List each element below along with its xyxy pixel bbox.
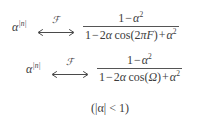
script-f-icon: ℱ [48, 57, 92, 67]
lhs-expression-1: α|n| [12, 19, 27, 35]
equation-sheet: α|n| ℱ 1−α2 1−2α cos(2πF)+α2 α|n| ℱ [0, 0, 210, 133]
denominator-2: 1−2α cos(Ω)+α2 [97, 69, 182, 84]
denominator-1: 1−2α cos(2πF)+α2 [83, 27, 179, 42]
convergence-condition: (|α| < 1) [0, 102, 210, 114]
fraction-1: 1−α2 1−2α cos(2πF)+α2 [83, 11, 179, 43]
lhs-expression-2: α|n| [26, 61, 41, 77]
correspondence-operator-1: ℱ [34, 16, 78, 38]
numerator-1: 1−α2 [114, 11, 147, 26]
double-arrow-icon [49, 71, 91, 78]
equation-row-1: α|n| ℱ 1−α2 1−2α cos(2πF)+α2 [12, 11, 179, 43]
numerator-2: 1−α2 [123, 53, 156, 68]
alpha-exponent: |n| [32, 61, 40, 70]
alpha-exponent: |n| [18, 19, 26, 28]
fraction-2: 1−α2 1−2α cos(Ω)+α2 [97, 53, 182, 85]
script-f-icon: ℱ [34, 15, 78, 25]
condition-text: (|α| < 1) [91, 101, 129, 115]
equation-row-2: α|n| ℱ 1−α2 1−2α cos(Ω)+α2 [26, 53, 182, 85]
double-arrow-icon [35, 29, 77, 36]
correspondence-operator-2: ℱ [48, 58, 92, 80]
